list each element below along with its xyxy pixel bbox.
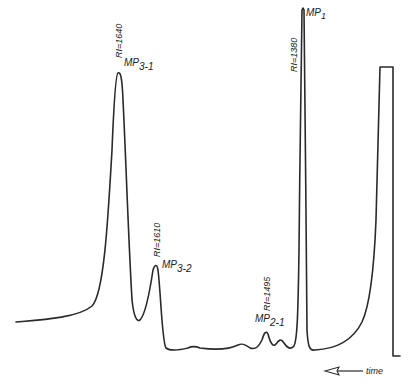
- time-axis-label: time: [366, 366, 383, 376]
- time-arrow-icon: [325, 367, 363, 375]
- mp32-label: MP3-2: [162, 259, 192, 274]
- mp32-ri-label: RI=1610: [152, 223, 162, 257]
- mp1-label: MP1: [306, 7, 326, 21]
- chromatogram: RI=1640 MP3-1 RI=1610 MP3-2 RI=1495 MP2-…: [0, 0, 420, 390]
- mp21-ri-label: RI=1495: [262, 276, 272, 311]
- mp31-ri-label: RI=1640: [114, 24, 124, 58]
- mp1-ri-label: RI=1380: [289, 38, 299, 72]
- mp31-label: MP3-1: [124, 57, 153, 72]
- mp21-label: MP2-1: [255, 313, 284, 328]
- chromatogram-trace: [16, 8, 400, 356]
